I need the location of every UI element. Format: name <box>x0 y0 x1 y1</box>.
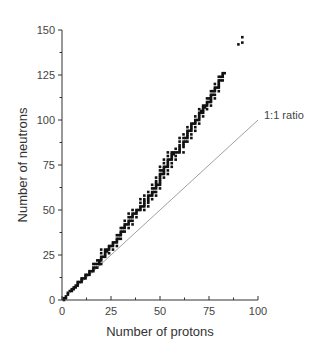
data-point <box>237 43 240 46</box>
data-point <box>210 104 213 107</box>
one-to-one-reference-line <box>62 120 258 300</box>
data-point <box>131 209 134 212</box>
data-point <box>139 202 142 205</box>
data-point <box>190 137 193 140</box>
data-point <box>241 36 244 39</box>
x-tick-label: 25 <box>105 305 117 317</box>
data-point <box>198 122 201 125</box>
data-point <box>155 180 158 183</box>
data-point <box>214 97 217 100</box>
data-point <box>214 83 217 86</box>
y-tick-label: 25 <box>43 249 55 261</box>
data-point <box>182 133 185 136</box>
data-point <box>178 140 181 143</box>
data-point <box>163 176 166 179</box>
data-point <box>120 238 123 241</box>
x-axis-title: Number of protons <box>106 324 214 339</box>
data-point <box>131 220 134 223</box>
x-tick-label: 0 <box>59 305 65 317</box>
data-point <box>194 115 197 118</box>
data-point <box>186 126 189 129</box>
data-point <box>178 144 181 147</box>
data-point <box>194 126 197 129</box>
data-point <box>159 187 162 190</box>
data-point <box>182 151 185 154</box>
data-point <box>174 155 177 158</box>
data-point <box>174 158 177 161</box>
data-point <box>108 252 111 255</box>
data-point <box>123 230 126 233</box>
y-tick-label: 0 <box>49 294 55 306</box>
data-point <box>159 166 162 169</box>
data-point <box>167 169 170 172</box>
data-point <box>131 223 134 226</box>
data-point <box>174 148 177 151</box>
y-tick-label: 75 <box>43 159 55 171</box>
data-point <box>186 140 189 143</box>
data-point <box>167 155 170 158</box>
y-tick-label: 125 <box>37 69 55 81</box>
axes <box>62 30 258 300</box>
data-point <box>123 220 126 223</box>
data-point <box>194 130 197 133</box>
data-point <box>155 194 158 197</box>
x-tick-label: 75 <box>203 305 215 317</box>
data-point <box>139 198 142 201</box>
data-point <box>147 191 150 194</box>
data-point <box>163 162 166 165</box>
data-point <box>143 194 146 197</box>
data-point <box>190 133 193 136</box>
data-point <box>135 216 138 219</box>
data-point <box>241 41 244 44</box>
y-axis-ticks: 0255075100125150 <box>37 24 62 306</box>
data-point <box>127 212 130 215</box>
data-point <box>155 176 158 179</box>
data-point <box>163 158 166 161</box>
one-to-one-ratio-label: 1:1 ratio <box>264 109 304 121</box>
x-tick-label: 100 <box>249 305 267 317</box>
data-point <box>143 209 146 212</box>
data-point <box>151 184 154 187</box>
data-point <box>151 198 154 201</box>
data-point <box>147 205 150 208</box>
stable-nuclei-points <box>63 36 244 301</box>
data-point <box>100 263 103 266</box>
y-tick-label: 50 <box>43 204 55 216</box>
data-point <box>170 162 173 165</box>
data-point <box>96 266 99 269</box>
data-point <box>116 245 119 248</box>
data-point <box>202 115 205 118</box>
reference-line <box>62 120 258 300</box>
data-point <box>221 79 224 82</box>
data-point <box>100 252 103 255</box>
x-tick-label: 50 <box>154 305 166 317</box>
data-point <box>170 166 173 169</box>
data-point <box>206 108 209 111</box>
data-point <box>100 248 103 251</box>
data-point <box>167 173 170 176</box>
x-axis-ticks: 0255075100 <box>59 296 267 317</box>
y-axis-title: Number of neutrons <box>15 107 30 222</box>
data-point <box>127 227 130 230</box>
nuclear-stability-chart: 0255075100 0255075100125150 Number of pr… <box>0 0 317 354</box>
y-tick-label: 100 <box>37 114 55 126</box>
data-point <box>218 90 221 93</box>
data-point <box>178 137 181 140</box>
data-point <box>214 94 217 97</box>
y-tick-label: 150 <box>37 24 55 36</box>
data-point <box>223 72 226 75</box>
data-point <box>167 151 170 154</box>
data-point <box>143 198 146 201</box>
data-point <box>112 248 115 251</box>
data-point <box>155 191 158 194</box>
